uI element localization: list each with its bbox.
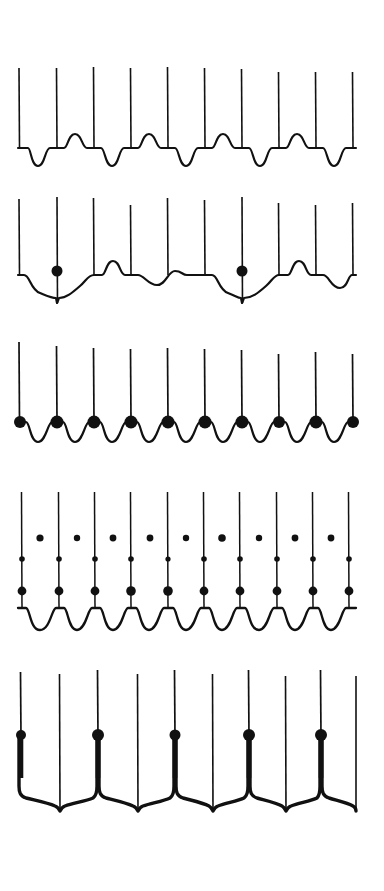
panel-a-svg	[0, 50, 384, 175]
panel-d-lower-spike-dots	[18, 586, 354, 596]
spike	[168, 348, 169, 422]
marker-dot-large	[163, 586, 173, 596]
spike	[279, 72, 280, 148]
spike-thin	[286, 676, 287, 811]
spike-thick-tip	[175, 670, 176, 738]
spike	[168, 198, 169, 275]
panel-b-marker-dots	[52, 266, 248, 277]
marker-dot-large	[55, 587, 64, 596]
panel-a-trace	[18, 134, 356, 166]
panel-d-spikes	[22, 492, 350, 608]
spike	[316, 352, 317, 422]
marker-dot	[236, 416, 249, 429]
marker-dot-small	[92, 556, 98, 562]
spike	[205, 68, 206, 148]
marker-dot-small	[237, 556, 243, 562]
spike	[316, 72, 317, 148]
spike	[242, 350, 243, 422]
marker-dot	[199, 416, 212, 429]
marker-dot-large	[18, 587, 27, 596]
spike	[94, 67, 95, 148]
spike	[131, 349, 132, 422]
panel-e-svg	[0, 658, 384, 848]
marker-dot	[347, 416, 359, 428]
marker-dot-gap	[218, 534, 226, 542]
spike	[57, 68, 58, 148]
panel-d-svg	[0, 480, 384, 650]
spike-thick-tip	[249, 670, 250, 738]
marker-dot	[92, 729, 104, 741]
marker-dot-small	[201, 556, 207, 562]
marker-dot	[125, 416, 138, 429]
panel-e-thick-spikes	[21, 670, 322, 778]
marker-dot-small	[128, 556, 134, 562]
marker-dot	[310, 416, 323, 429]
spike-thick-tip	[21, 672, 22, 738]
spike	[316, 205, 317, 275]
panel-d-trace	[18, 608, 356, 630]
spike	[19, 199, 20, 275]
spike	[279, 203, 280, 275]
marker-dot-small	[19, 556, 25, 562]
marker-dot-small	[56, 556, 62, 562]
trace-panel-c	[0, 330, 384, 470]
marker-dot-large	[126, 586, 136, 596]
spike	[279, 354, 280, 422]
marker-dot-large	[345, 587, 354, 596]
spike	[168, 67, 169, 148]
marker-dot	[273, 416, 285, 428]
panel-b-svg	[0, 185, 384, 320]
marker-dot-gap	[36, 534, 43, 541]
panel-d-gap-dots	[36, 534, 334, 542]
marker-dot-large	[273, 587, 282, 596]
panel-a-waveform	[18, 134, 356, 166]
spike	[131, 68, 132, 148]
spike	[19, 68, 20, 148]
marker-dot-gap	[110, 535, 117, 542]
spike-marked	[57, 197, 58, 303]
spike-thick-tip	[98, 670, 99, 738]
spike	[205, 349, 206, 422]
panel-c-svg	[0, 330, 384, 470]
panel-c-trace	[18, 422, 356, 442]
marker-dot	[162, 416, 175, 429]
spike-thick-tip	[321, 670, 322, 738]
marker-dot-large	[91, 587, 100, 596]
marker-dot-small	[165, 556, 170, 561]
marker-dot-gap	[256, 535, 262, 541]
panel-e-trace	[19, 736, 356, 811]
panel-c-waveform	[18, 422, 356, 442]
spike	[353, 354, 354, 422]
spike	[94, 348, 95, 422]
marker-dot-gap	[292, 535, 299, 542]
spike-thin	[60, 674, 61, 811]
marker-dot	[52, 266, 63, 277]
panel-e-waveform	[19, 736, 356, 811]
spike-thin	[138, 674, 139, 811]
marker-dot-large	[236, 587, 245, 596]
marker-dot	[237, 266, 248, 277]
spike	[242, 69, 243, 148]
marker-dot	[243, 729, 255, 741]
panel-d-upper-spike-dots	[19, 556, 352, 562]
marker-dot	[170, 730, 181, 741]
spike	[57, 346, 58, 422]
marker-dot-gap	[328, 535, 335, 542]
marker-dot-large	[309, 587, 318, 596]
trace-panel-d	[0, 480, 384, 650]
marker-dot-gap	[74, 535, 80, 541]
marker-dot-gap	[183, 535, 189, 541]
marker-dot-small	[274, 556, 280, 562]
panel-b-waveform	[18, 261, 356, 303]
marker-dot	[16, 730, 26, 740]
trace-panel-b	[0, 185, 384, 320]
panel-e-marker-dots	[16, 729, 327, 741]
panel-b-spikes	[19, 197, 353, 303]
marker-dot	[51, 416, 64, 429]
trace-panel-e	[0, 658, 384, 848]
figure-root: Intracellular recording traces	[0, 0, 384, 891]
spike	[94, 198, 95, 275]
spike-marked	[242, 197, 243, 303]
spike	[19, 342, 20, 422]
marker-dot	[315, 729, 327, 741]
